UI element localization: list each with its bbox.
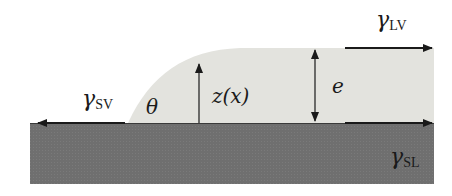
thickness-label: e [332, 74, 344, 98]
liquid-film [128, 48, 434, 123]
gamma-sv-label: γSV [82, 86, 113, 112]
wetting-diagram: γSV θ z(x) e γLV γSL [0, 0, 452, 196]
solid-substrate [30, 123, 434, 184]
gamma-lv-label: γLV [376, 7, 407, 33]
theta-label: θ [146, 95, 158, 119]
z-of-x-label: z(x) [211, 84, 249, 108]
